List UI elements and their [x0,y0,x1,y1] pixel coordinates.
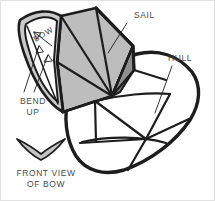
sailboat-diagram: SAIL HULL BOW BEND UP FRONT VIEW OF BOW [0,0,215,201]
label-front-view-of-bow: FRONT VIEW OF BOW [8,168,84,189]
hull-crease-left-vertical [95,101,96,142]
front-view-inset [17,139,65,160]
label-hull: HULL [168,53,192,64]
label-sail: SAIL [134,10,155,21]
label-bend-up: BEND UP [12,96,54,117]
front-view-chevron [17,139,65,160]
